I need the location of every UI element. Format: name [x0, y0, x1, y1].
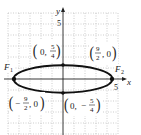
svg-text:(: ( [64, 95, 69, 115]
top-covertex-label: ( 0, 5 4 ) [33, 40, 61, 62]
bottom-covertex-label: ( 0, − 5 4 ) [64, 94, 102, 116]
svg-text:−: − [81, 100, 86, 110]
svg-text:): ) [56, 41, 61, 61]
svg-text:(: ( [90, 43, 95, 63]
y-tick-5: 5 [57, 19, 61, 28]
left-vertex-point [12, 77, 16, 81]
svg-text:1: 1 [10, 67, 13, 73]
top-covertex-point [61, 63, 65, 67]
svg-text:5: 5 [90, 97, 94, 105]
svg-text:2: 2 [121, 69, 124, 75]
svg-text:9: 9 [96, 45, 100, 53]
svg-text:2: 2 [24, 104, 28, 112]
svg-text:(: ( [33, 41, 38, 61]
svg-text:): ) [40, 93, 45, 113]
y-axis-label: y [55, 6, 60, 16]
svg-text:(: ( [9, 93, 14, 113]
svg-text:4: 4 [51, 52, 55, 60]
x-tick-5: 5 [114, 83, 118, 92]
svg-text:9: 9 [24, 95, 28, 103]
y-axis-arrow-icon [61, 7, 65, 12]
svg-text:): ) [96, 95, 101, 115]
svg-text:): ) [112, 43, 117, 63]
right-vertex-point [110, 77, 114, 81]
svg-text:0,: 0, [70, 101, 77, 111]
x-axis-label: x [126, 77, 131, 87]
svg-text:5: 5 [51, 43, 55, 51]
svg-text:2: 2 [96, 54, 100, 62]
svg-text:F: F [114, 64, 121, 74]
right-vertex-label: ( 9 2 , 0 ) [90, 42, 118, 64]
svg-text:, 0: , 0 [102, 49, 112, 59]
focus-f1-label: F 1 [3, 62, 15, 73]
svg-text:0,: 0, [40, 47, 47, 57]
svg-text:−: − [15, 98, 20, 108]
focus-f2-label: F 2 [114, 64, 127, 75]
svg-text:F: F [3, 62, 10, 72]
svg-text:, 0: , 0 [29, 99, 39, 109]
left-vertex-label: ( − 9 2 , 0 ) [9, 92, 45, 114]
svg-text:4: 4 [90, 106, 94, 114]
ellipse-diagram: x y 5 5 F 1 F 2 ( 0, 5 4 ) ( 9 2 , 0 ) [0, 0, 141, 135]
